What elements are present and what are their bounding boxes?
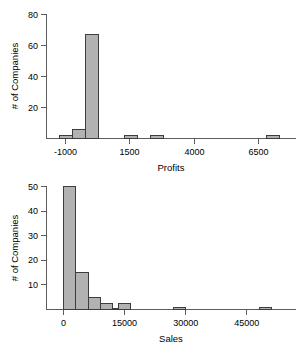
bar [119, 303, 131, 309]
sales-y-ticks [41, 187, 47, 285]
bar [266, 135, 279, 138]
sales-ytick-label-20: 20 [28, 255, 38, 265]
bar [100, 303, 112, 309]
sales-xtick-label-0: 0 [61, 318, 66, 328]
bar [88, 297, 100, 309]
bar [150, 135, 163, 138]
sales-ytick-label-10: 10 [28, 280, 38, 290]
sales-ytick-label-40: 40 [28, 206, 38, 216]
sales-plot-area: 50 40 30 20 10 0 15000 30000 45000 [9, 182, 296, 345]
profits-y-axis-title: # of Companies [9, 42, 20, 109]
sales-xtick-label-45000: 45000 [234, 318, 259, 328]
bar [174, 308, 186, 310]
profits-xtick-label-neg1000: -1000 [54, 147, 77, 157]
sales-ytick-label-30: 30 [28, 231, 38, 241]
sales-x-ticks [64, 310, 247, 316]
sales-xtick-label-15000: 15000 [112, 318, 137, 328]
sales-bars [64, 187, 272, 310]
profits-xtick-label-6500: 6500 [248, 147, 268, 157]
sales-histogram-figure: 50 40 30 20 10 0 15000 30000 45000 [0, 178, 304, 356]
bar [59, 135, 72, 138]
profits-plot-area: 80 60 40 20 -1000 1500 4000 6500 [9, 10, 296, 174]
bar [64, 187, 76, 310]
profits-ytick-label-80: 80 [28, 10, 38, 20]
profits-y-ticks [41, 15, 47, 108]
bar [112, 308, 118, 310]
profits-x-ticks [66, 139, 259, 145]
profits-xtick-label-4000: 4000 [184, 147, 204, 157]
profits-x-axis-title: Profits [158, 162, 185, 173]
profits-ytick-label-20: 20 [28, 103, 38, 113]
profits-bars [59, 35, 279, 139]
bar [259, 308, 271, 310]
profits-chart-canvas: 80 60 40 20 -1000 1500 4000 6500 [0, 0, 304, 178]
sales-x-axis-title: Sales [159, 333, 183, 344]
bar [76, 273, 88, 310]
bar [85, 35, 98, 139]
sales-ytick-label-50: 50 [28, 182, 38, 192]
bar [124, 135, 137, 138]
sales-y-axis-title: # of Companies [9, 214, 20, 281]
sales-xtick-label-30000: 30000 [173, 318, 198, 328]
profits-ytick-label-40: 40 [28, 72, 38, 82]
profits-xtick-label-1500: 1500 [119, 147, 139, 157]
sales-chart-canvas: 50 40 30 20 10 0 15000 30000 45000 [0, 178, 304, 356]
profits-ytick-label-60: 60 [28, 41, 38, 51]
profits-histogram-figure: 80 60 40 20 -1000 1500 4000 6500 [0, 0, 304, 178]
bar [72, 129, 85, 138]
